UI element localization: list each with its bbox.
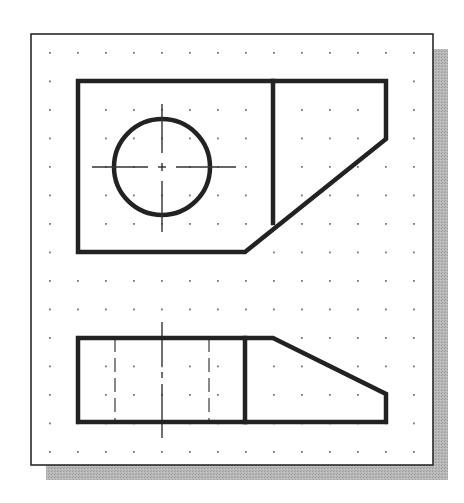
grid-dot xyxy=(133,195,135,197)
grid-dot xyxy=(329,337,331,339)
grid-dot xyxy=(301,252,303,254)
grid-dot xyxy=(329,252,331,254)
grid-dot xyxy=(245,109,247,111)
grid-dot xyxy=(329,195,331,197)
grid-dot xyxy=(357,337,359,339)
grid-dot xyxy=(385,252,387,254)
grid-dot xyxy=(105,394,107,396)
grid-dot xyxy=(49,394,51,396)
grid-dot xyxy=(49,52,51,54)
grid-dot xyxy=(105,52,107,54)
grid-dot xyxy=(161,280,163,282)
grid-dot xyxy=(301,309,303,311)
grid-dot xyxy=(301,394,303,396)
grid-dot xyxy=(385,337,387,339)
grid-dot xyxy=(133,366,135,368)
grid-dot xyxy=(105,195,107,197)
grid-dot xyxy=(49,81,51,83)
grid-dot xyxy=(217,309,219,311)
grid-dot xyxy=(217,366,219,368)
grid-dot xyxy=(105,451,107,453)
grid-dot xyxy=(49,138,51,140)
grid-dot xyxy=(217,138,219,140)
grid-dot xyxy=(329,280,331,282)
grid-dot xyxy=(245,451,247,453)
grid-dot xyxy=(357,366,359,368)
grid-dot xyxy=(105,309,107,311)
grid-dot xyxy=(245,195,247,197)
grid-dot xyxy=(245,138,247,140)
grid-dot xyxy=(133,138,135,140)
grid-dot xyxy=(161,309,163,311)
grid-dot xyxy=(273,52,275,54)
grid-dot xyxy=(301,280,303,282)
grid-dot xyxy=(245,309,247,311)
grid-dot xyxy=(357,138,359,140)
grid-dot xyxy=(357,166,359,168)
grid-dot xyxy=(329,451,331,453)
grid-dot xyxy=(245,166,247,168)
grid-dot xyxy=(105,280,107,282)
grid-dot xyxy=(413,109,415,111)
drawing-canvas xyxy=(0,0,464,503)
grid-dot xyxy=(413,280,415,282)
grid-dot xyxy=(301,337,303,339)
grid-dot xyxy=(357,451,359,453)
grid-dot xyxy=(133,223,135,225)
grid-dot xyxy=(189,451,191,453)
grid-dot xyxy=(161,451,163,453)
grid-dot xyxy=(357,195,359,197)
grid-dot xyxy=(77,309,79,311)
grid-dot xyxy=(413,52,415,54)
grid-dot xyxy=(385,451,387,453)
grid-dot xyxy=(189,366,191,368)
grid-dot xyxy=(413,166,415,168)
grid-dot xyxy=(301,166,303,168)
grid-dot xyxy=(385,52,387,54)
grid-dot xyxy=(189,394,191,396)
grid-dot xyxy=(329,109,331,111)
grid-dot xyxy=(385,166,387,168)
grid-dot xyxy=(77,52,79,54)
grid-dot xyxy=(49,309,51,311)
grid-dot xyxy=(357,252,359,254)
grid-dot xyxy=(189,309,191,311)
grid-dot xyxy=(189,195,191,197)
grid-dot xyxy=(301,52,303,54)
grid-dot xyxy=(273,394,275,396)
grid-dot xyxy=(273,451,275,453)
grid-dot xyxy=(49,423,51,425)
grid-dot xyxy=(105,223,107,225)
grid-dot xyxy=(413,252,415,254)
grid-dot xyxy=(413,138,415,140)
grid-dot xyxy=(413,195,415,197)
grid-dot xyxy=(273,280,275,282)
grid-dot xyxy=(245,280,247,282)
grid-dot xyxy=(329,309,331,311)
grid-dot xyxy=(357,309,359,311)
grid-dot xyxy=(413,223,415,225)
grid-dot xyxy=(49,252,51,254)
grid-dot xyxy=(273,252,275,254)
grid-dot xyxy=(217,223,219,225)
grid-dot xyxy=(49,451,51,453)
sheet-border xyxy=(31,34,433,465)
grid-dot xyxy=(413,309,415,311)
grid-dot xyxy=(105,366,107,368)
grid-dot xyxy=(273,366,275,368)
grid-dot xyxy=(133,309,135,311)
grid-dot xyxy=(49,280,51,282)
grid-dot xyxy=(357,394,359,396)
grid-dot xyxy=(217,280,219,282)
grid-dot xyxy=(245,223,247,225)
grid-dot xyxy=(329,166,331,168)
grid-dot xyxy=(301,366,303,368)
grid-dot xyxy=(329,138,331,140)
grid-dot xyxy=(133,451,135,453)
drawing-sheet xyxy=(31,34,433,465)
grid-dot xyxy=(189,52,191,54)
grid-dot xyxy=(357,109,359,111)
grid-dot xyxy=(133,280,135,282)
grid-dot xyxy=(329,52,331,54)
grid-dot xyxy=(49,195,51,197)
